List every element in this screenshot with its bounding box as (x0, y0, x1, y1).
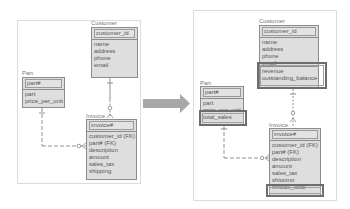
after-relationship-lines (0, 0, 350, 209)
